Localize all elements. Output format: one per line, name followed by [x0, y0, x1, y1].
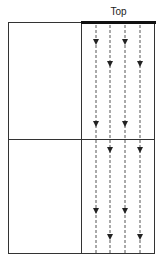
arrow-down-icon [107, 61, 113, 67]
flow-line-3 [122, 25, 128, 253]
arrow-down-icon [93, 39, 99, 45]
arrow-down-icon [137, 234, 143, 240]
flow-line-4 [137, 25, 143, 253]
arrow-down-icon [107, 234, 113, 240]
arrow-down-icon [137, 61, 143, 67]
arrow-down-icon [107, 147, 113, 153]
flow-lines [0, 0, 165, 267]
flow-line-1 [93, 25, 99, 253]
flow-line-2 [107, 25, 113, 253]
arrow-down-icon [122, 39, 128, 45]
arrow-down-icon [93, 208, 99, 214]
arrow-down-icon [93, 121, 99, 127]
arrow-down-icon [122, 121, 128, 127]
arrow-down-icon [137, 147, 143, 153]
arrow-down-icon [122, 208, 128, 214]
